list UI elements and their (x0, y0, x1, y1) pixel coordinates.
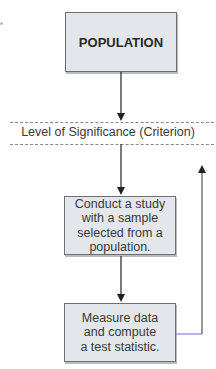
arrow-down-icon (117, 144, 125, 195)
arrow-down-icon (117, 72, 125, 121)
connector-arrows (0, 0, 216, 369)
feedback-arrow-up-icon (176, 165, 206, 334)
arrow-down-icon (117, 256, 125, 302)
